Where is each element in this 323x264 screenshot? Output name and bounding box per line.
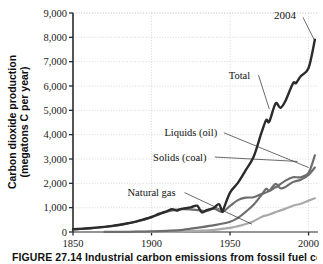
annotation-2004: 2004 — [274, 9, 297, 21]
figure-caption: FIGURE 27.14 Industrial carbon emissions… — [12, 251, 317, 263]
co2-production-line-chart: 01,0002,0003,0004,0005,0006,0007,0008,00… — [0, 0, 323, 264]
annotation-liquids-oil: Liquids (oil) — [164, 127, 217, 139]
y-tick-label: 5,000 — [43, 105, 67, 116]
y-tick-label: 4,000 — [43, 129, 67, 140]
figure-container: 01,0002,0003,0004,0005,0006,0007,0008,00… — [0, 0, 323, 264]
x-tick-label: 1850 — [63, 238, 84, 249]
x-tick-label: 2000 — [298, 238, 319, 249]
y-tick-label: 6,000 — [43, 81, 67, 92]
annotation-total: Total — [229, 70, 251, 81]
y-tick-label: 7,000 — [43, 56, 67, 67]
annotation-solids-coal: Solids (coal) — [153, 152, 207, 164]
x-tick-label: 1900 — [141, 238, 162, 249]
annotation-natural-gas: Natural gas — [127, 187, 175, 198]
y-axis-title-line1: Carbon dioxide production — [6, 55, 18, 189]
y-axis-title: Carbon dioxide production (megatons C pe… — [6, 55, 30, 189]
y-tick-label: 2,000 — [43, 178, 67, 189]
y-tick-label: 0 — [62, 227, 67, 238]
y-tick-label: 9,000 — [43, 8, 67, 19]
y-axis-title-line2: (megatons C per year) — [18, 67, 30, 178]
y-tick-label: 8,000 — [43, 32, 67, 43]
y-tick-label: 3,000 — [43, 154, 67, 165]
y-tick-label: 1,000 — [43, 202, 67, 213]
x-tick-label: 1950 — [220, 238, 241, 249]
